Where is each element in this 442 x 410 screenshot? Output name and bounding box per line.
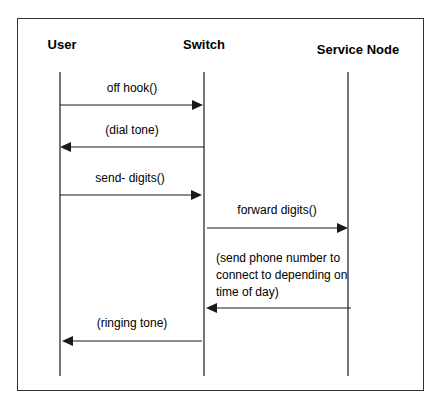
participant-label-service_node: Service Node <box>317 42 399 57</box>
arrowhead-icon <box>62 336 73 346</box>
message-label: (send phone number to <box>216 251 340 265</box>
message-arrow: off hook() <box>60 81 203 110</box>
arrowhead-icon <box>337 223 348 233</box>
message-arrow: (send phone number toconnect to dependin… <box>206 251 351 313</box>
arrowhead-icon <box>192 100 203 110</box>
sequence-diagram: UserSwitchService Nodeoff hook()(dial to… <box>0 0 442 410</box>
participant-label-user: User <box>48 37 77 52</box>
message-arrow: (dial tone) <box>60 123 204 152</box>
message-arrow: forward digits() <box>207 203 348 233</box>
message-label: time of day) <box>216 285 279 299</box>
message-label: forward digits() <box>237 203 316 217</box>
message-label: connect to depending on <box>216 268 347 282</box>
message-arrow: (ringing tone) <box>62 316 202 346</box>
message-label: send- digits() <box>95 171 164 185</box>
message-arrow: send- digits() <box>60 171 202 200</box>
arrowhead-icon <box>191 190 202 200</box>
message-label: (ringing tone) <box>97 316 168 330</box>
arrowhead-icon <box>206 303 217 313</box>
message-label: (dial tone) <box>105 123 158 137</box>
message-label: off hook() <box>107 81 157 95</box>
participant-label-switch: Switch <box>183 37 225 52</box>
arrowhead-icon <box>60 142 71 152</box>
